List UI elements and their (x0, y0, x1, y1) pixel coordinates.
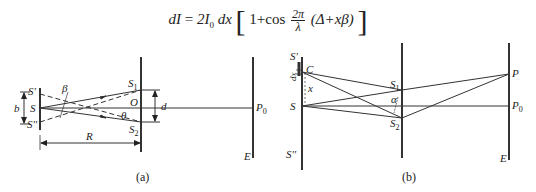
label-p: P (511, 67, 519, 79)
label-p0-a: P0 (255, 101, 267, 116)
diagrams: S' S S'' b β S1 O θ S2 d P0 R E (a) (0, 0, 536, 192)
label-d: d (161, 100, 167, 112)
label-e-b: E (499, 152, 507, 164)
label-o: O (130, 96, 138, 108)
ray-s-s1 (40, 90, 141, 108)
label-s1-b: S1 (390, 78, 400, 93)
ray-arrow-top (100, 96, 106, 99)
label-beta: β (61, 82, 68, 94)
label-alpha: α (391, 93, 397, 105)
label-c: C (306, 63, 314, 75)
label-b: b (14, 102, 20, 114)
ray-s2-p (402, 74, 509, 118)
ray-s1-p (402, 74, 509, 90)
label-p0-b: P0 (511, 99, 523, 114)
caption-a: (a) (136, 170, 149, 184)
ray-c-s2 (302, 72, 402, 118)
label-s1-a: S1 (128, 77, 138, 92)
label-s-double-prime-a: S'' (27, 118, 38, 130)
label-s-b: S (290, 100, 296, 112)
label-e-a: E (243, 150, 251, 162)
label-s2-b: S2 (390, 117, 400, 132)
label-s-prime-a: S' (28, 85, 37, 97)
ray-s-s1-b (302, 90, 402, 106)
ray-c-s1 (302, 72, 402, 90)
label-x: x (307, 82, 313, 94)
label-dx: dx (288, 73, 298, 82)
label-s-double-prime-b: S'' (286, 148, 297, 160)
ray-s-s2-b (302, 106, 402, 118)
ray-arrow-bottom (100, 115, 106, 118)
label-theta: θ (121, 109, 127, 121)
figure-b (296, 43, 509, 170)
caption-b: (b) (402, 170, 416, 184)
label-r: R (85, 130, 93, 142)
label-s-a: S (30, 102, 36, 114)
label-s2-a: S2 (129, 123, 139, 138)
label-s-prime-b: S' (290, 50, 299, 62)
